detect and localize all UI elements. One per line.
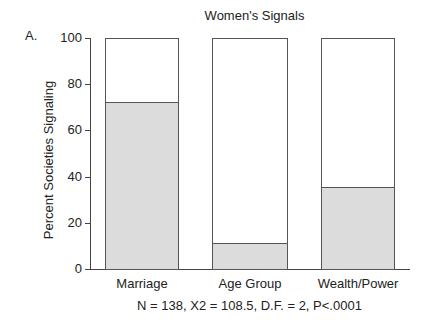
bar-age-group — [212, 38, 288, 270]
y-tick-label: 100 — [42, 30, 82, 45]
x-category-label: Wealth/Power — [303, 276, 413, 291]
y-tick-label: 0 — [42, 261, 82, 276]
y-tick-label: 80 — [42, 76, 82, 91]
y-tick — [85, 269, 91, 270]
y-tick — [85, 177, 91, 178]
chart-title: Women's Signals — [0, 8, 429, 23]
y-tick — [85, 38, 91, 39]
y-tick-label: 60 — [42, 122, 82, 137]
y-axis-line — [90, 38, 91, 269]
bar-fill — [213, 243, 287, 269]
y-tick-label: 20 — [42, 215, 82, 230]
panel-label: A. — [25, 28, 37, 43]
x-category-label: Age Group — [195, 276, 305, 291]
y-tick — [85, 223, 91, 224]
bar-fill — [106, 102, 178, 269]
y-tick — [85, 130, 91, 131]
y-tick — [85, 84, 91, 85]
x-category-label: Marriage — [87, 276, 197, 291]
bar-fill — [322, 187, 394, 269]
bar-marriage — [105, 38, 179, 270]
y-tick-label: 40 — [42, 169, 82, 184]
statistics-annotation: N = 138, X2 = 108.5, D.F. = 2, P<.0001 — [0, 298, 429, 313]
bar-wealth-power — [321, 38, 395, 270]
